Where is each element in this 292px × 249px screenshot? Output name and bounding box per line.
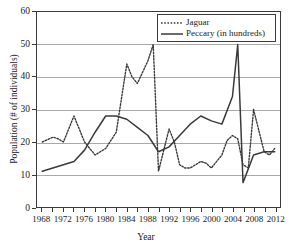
x-tick-mark bbox=[212, 208, 213, 212]
x-tick-mark bbox=[180, 208, 181, 212]
x-tick-mark bbox=[95, 208, 96, 212]
legend-label-peccary: Peccary (in hundreds) bbox=[186, 28, 265, 39]
legend: Jaguar Peccary (in hundreds) bbox=[157, 14, 276, 42]
x-tick-mark bbox=[265, 208, 266, 212]
x-tick-mark bbox=[244, 208, 245, 212]
y-tick-label-60: 60 bbox=[6, 6, 30, 16]
y-tick-label-20: 20 bbox=[6, 137, 30, 147]
x-tick-mark bbox=[254, 208, 255, 212]
solid-line-icon bbox=[161, 29, 183, 38]
y-tick-label-0: 0 bbox=[6, 203, 30, 213]
dotted-line-icon bbox=[161, 18, 183, 27]
x-tick-mark bbox=[169, 208, 170, 212]
x-tick-mark bbox=[63, 208, 64, 212]
y-tick-label-40: 40 bbox=[6, 71, 30, 81]
legend-item-jaguar: Jaguar bbox=[161, 17, 272, 28]
legend-item-peccary: Peccary (in hundreds) bbox=[161, 28, 272, 39]
x-tick-mark bbox=[201, 208, 202, 212]
x-tick-mark bbox=[52, 208, 53, 212]
x-axis-title: Year bbox=[0, 232, 292, 242]
x-tick-mark bbox=[190, 208, 191, 212]
x-tick-mark bbox=[127, 208, 128, 212]
plot-area: Jaguar Peccary (in hundreds) bbox=[36, 11, 281, 208]
x-tick-mark bbox=[159, 208, 160, 212]
x-tick-mark bbox=[116, 208, 117, 212]
y-tick-mark bbox=[32, 208, 36, 209]
line-chart: Population (# of individuals) 60 50 40 3… bbox=[0, 0, 292, 249]
x-tick-mark bbox=[105, 208, 106, 212]
y-tick-label-30: 30 bbox=[6, 104, 30, 114]
x-tick-mark bbox=[137, 208, 138, 212]
y-tick-label-50: 50 bbox=[6, 39, 30, 49]
x-tick-mark bbox=[41, 208, 42, 212]
x-tick-mark bbox=[222, 208, 223, 212]
x-tick-mark bbox=[148, 208, 149, 212]
x-tick-label-2012: 2012 bbox=[256, 214, 292, 224]
y-tick-label-10: 10 bbox=[6, 170, 30, 180]
x-tick-mark bbox=[233, 208, 234, 212]
x-tick-mark bbox=[73, 208, 74, 212]
x-tick-mark bbox=[276, 208, 277, 212]
x-tick-mark bbox=[84, 208, 85, 212]
legend-label-jaguar: Jaguar bbox=[186, 17, 210, 28]
